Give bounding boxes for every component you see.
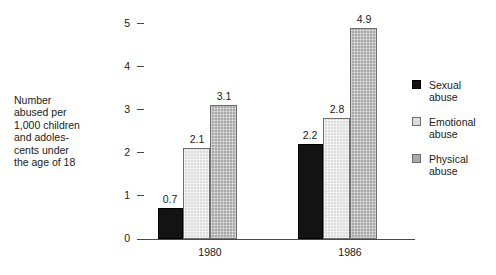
plot-area: 0.7 2.1 3.1 2.2 2.8 4.9 xyxy=(137,23,417,239)
y-tick-label-5: 5 xyxy=(108,17,130,29)
physical-swatch-icon xyxy=(412,154,421,163)
value-label-1980-emotional: 2.1 xyxy=(177,133,217,145)
value-label-1980-sexual: 0.7 xyxy=(150,193,190,205)
y-tick-label-2: 2 xyxy=(108,146,130,158)
legend-item-physical-abuse: Physical abuse xyxy=(412,153,492,179)
y-tick-label-0: 0 xyxy=(108,232,130,244)
legend-item-sexual-abuse: Sexual abuse xyxy=(412,79,492,105)
y-tick-label-4: 4 xyxy=(108,60,130,72)
legend-label-physical-abuse: Physical abuse xyxy=(429,153,492,178)
bar-1986-sexual xyxy=(298,144,323,239)
x-tick-label-1986: 1986 xyxy=(320,246,380,258)
x-axis-line xyxy=(137,239,415,240)
bar-1980-sexual xyxy=(158,208,183,239)
bar-1980-physical xyxy=(210,105,237,239)
y-axis-caption: Number abused per 1,000 children and ado… xyxy=(14,94,114,168)
value-label-1986-emotional: 2.8 xyxy=(317,103,357,115)
chart-figure: Number abused per 1,000 children and ado… xyxy=(0,0,496,275)
bar-1986-physical xyxy=(350,28,377,239)
emotional-swatch-icon xyxy=(412,117,421,126)
legend-item-emotional-abuse: Emotional abuse xyxy=(412,116,492,142)
value-label-1986-physical: 4.9 xyxy=(344,13,384,25)
legend-label-sexual-abuse: Sexual abuse xyxy=(429,79,492,104)
value-label-1980-physical: 3.1 xyxy=(204,90,244,102)
value-label-1986-sexual: 2.2 xyxy=(290,129,330,141)
y-tick-label-3: 3 xyxy=(108,103,130,115)
chart-legend: Sexual abuse Emotional abuse Physical ab… xyxy=(412,79,492,190)
legend-label-emotional-abuse: Emotional abuse xyxy=(429,116,492,141)
sexual-swatch-icon xyxy=(412,80,421,89)
x-tick-label-1980: 1980 xyxy=(180,246,240,258)
y-tick-label-1: 1 xyxy=(108,189,130,201)
